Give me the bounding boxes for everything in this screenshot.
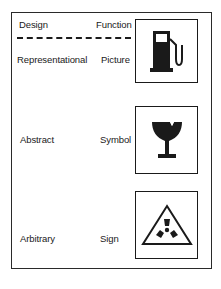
broken-glass-icon	[150, 118, 184, 162]
row-3-function: Sign	[100, 233, 119, 244]
radiation-warning-icon	[141, 203, 193, 247]
header-divider	[17, 37, 131, 39]
symbol-icon-box	[135, 106, 198, 174]
row-2-function: Symbol	[100, 134, 131, 145]
header-design: Design	[19, 19, 48, 30]
picture-icon-box	[135, 19, 198, 83]
row-3-design: Arbitrary	[20, 233, 55, 244]
row-1-design: Representational	[17, 54, 87, 65]
header-function: Function	[96, 19, 132, 30]
row-1-function: Picture	[101, 54, 130, 65]
row-2-design: Abstract	[20, 134, 54, 145]
fuel-pump-icon	[150, 29, 184, 73]
sign-icon-box	[135, 191, 198, 259]
